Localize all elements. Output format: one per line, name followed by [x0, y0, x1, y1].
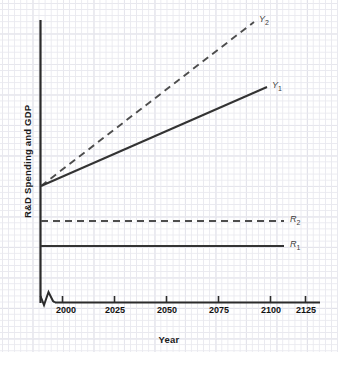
- series-label-y1-sub: 1: [278, 85, 282, 92]
- x-tick-label-2050: 2050: [157, 305, 177, 315]
- x-tick-label-2025: 2025: [105, 305, 125, 315]
- x-tick-label-2075: 2075: [209, 305, 229, 315]
- x-tick-label-2000: 2000: [56, 305, 76, 315]
- series-label-y2-sub: 2: [265, 19, 269, 26]
- series-line-y1: [41, 87, 267, 186]
- x-tick-marks: [63, 296, 306, 302]
- x-axis-title: Year: [0, 334, 338, 345]
- chart-figure: R&D Spending and GDP Year 2000 2025 2050…: [0, 0, 338, 368]
- series-label-y1: Y1: [272, 80, 282, 92]
- series-line-y2: [41, 22, 254, 186]
- axis-break-icon: [41, 292, 56, 305]
- series-label-r1-sub: 1: [297, 244, 301, 251]
- x-tick-label-2100: 2100: [261, 305, 281, 315]
- series-label-r1: R1: [290, 239, 300, 251]
- series-label-r2-sub: 2: [297, 219, 301, 226]
- y-axis-title: R&D Spending and GDP: [22, 105, 33, 218]
- series-label-y2: Y2: [259, 14, 269, 26]
- series-label-r2: R2: [290, 214, 300, 226]
- x-tick-label-2125: 2125: [296, 305, 316, 315]
